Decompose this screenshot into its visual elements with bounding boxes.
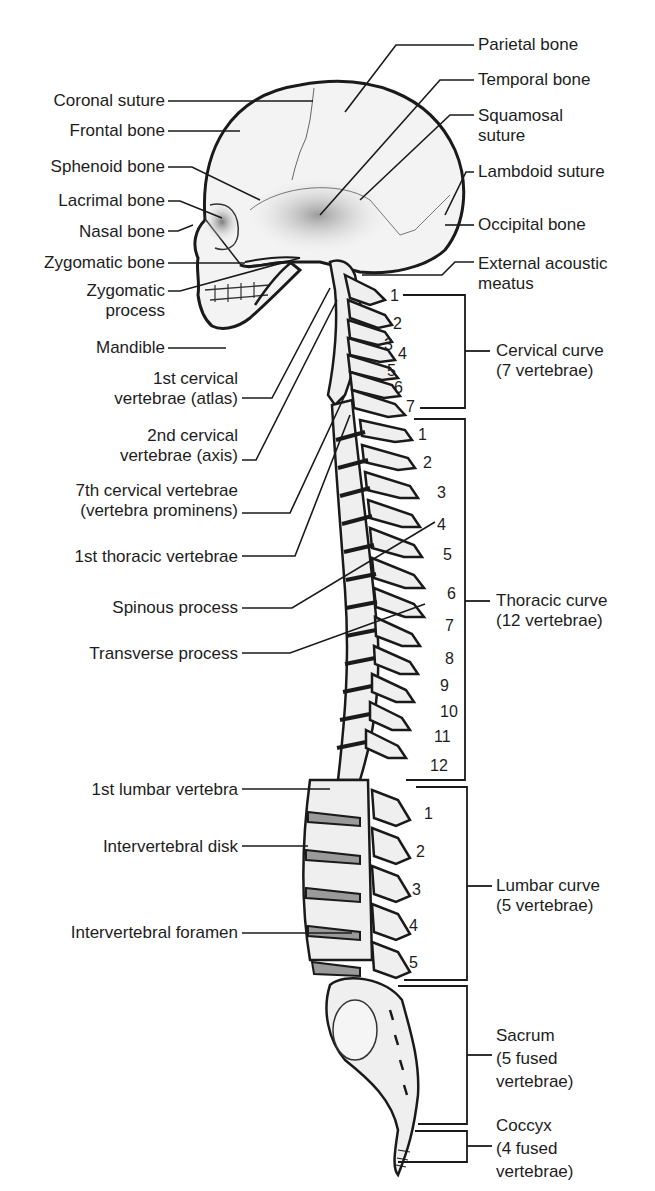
region-thoracic-count: (12 vertebrae) [496, 611, 607, 631]
thoracic-number-7: 7 [445, 617, 454, 635]
label-c7-line2: (vertebra prominens) [75, 501, 238, 521]
lumbar-number-2: 2 [416, 843, 425, 861]
region-cervical-curve: Cervical curve (7 vertebrae) [496, 341, 604, 381]
label-axis-line2: vertebrae (axis) [120, 446, 238, 466]
label-external-acoustic-meatus-line1: External acoustic [478, 254, 607, 274]
region-thoracic-curve: Thoracic curve (12 vertebrae) [496, 591, 607, 631]
label-occipital-bone: Occipital bone [478, 215, 586, 235]
region-coccyx: Coccyx (4 fused vertebrae) [496, 1114, 573, 1183]
label-spinous-process: Spinous process [112, 598, 238, 618]
label-lacrimal-bone: Lacrimal bone [58, 191, 165, 211]
label-atlas-line2: vertebrae (atlas) [114, 389, 238, 409]
thoracic-number-11: 11 [434, 728, 451, 746]
region-coccyx-count-line2: vertebrae) [496, 1160, 573, 1183]
label-parietal-bone: Parietal bone [478, 35, 578, 55]
region-sacrum-name: Sacrum [496, 1024, 573, 1047]
region-lumbar-count: (5 vertebrae) [496, 896, 600, 916]
label-external-acoustic-meatus: External acoustic meatus [478, 254, 607, 294]
cervical-number-6: 6 [394, 379, 403, 397]
lumbar-number-4: 4 [409, 917, 418, 935]
thoracic-number-5: 5 [443, 546, 452, 564]
thoracic-number-10: 10 [440, 703, 458, 721]
region-sacrum-count-line2: vertebrae) [496, 1070, 573, 1093]
region-lumbar-curve: Lumbar curve (5 vertebrae) [496, 876, 600, 916]
region-sacrum-count-line1: (5 fused [496, 1047, 573, 1070]
label-axis-line1: 2nd cervical [120, 426, 238, 446]
region-cervical-count: (7 vertebrae) [496, 361, 604, 381]
thoracic-number-1: 1 [418, 426, 427, 444]
region-cervical-name: Cervical curve [496, 341, 604, 361]
label-transverse-process: Transverse process [89, 644, 238, 664]
cervical-number-1: 1 [390, 287, 399, 305]
lumbar-number-3: 3 [412, 881, 421, 899]
label-atlas: 1st cervical vertebrae (atlas) [114, 369, 238, 409]
label-zygomatic-process-line2: process [5, 301, 165, 321]
cervical-number-7: 7 [406, 398, 415, 416]
label-external-acoustic-meatus-line2: meatus [478, 274, 607, 294]
lumbar-number-5: 5 [409, 954, 418, 972]
thoracic-number-3: 3 [437, 484, 446, 502]
label-coronal-suture: Coronal suture [53, 91, 165, 111]
label-axis: 2nd cervical vertebrae (axis) [120, 426, 238, 466]
label-1st-thoracic: 1st thoracic vertebrae [75, 547, 238, 567]
label-intervertebral-disk: Intervertebral disk [103, 837, 238, 857]
region-sacrum: Sacrum (5 fused vertebrae) [496, 1024, 573, 1093]
lumbar-number-1: 1 [424, 805, 433, 823]
thoracic-number-12: 12 [430, 757, 448, 775]
thoracic-number-6: 6 [447, 585, 456, 603]
label-nasal-bone: Nasal bone [79, 222, 165, 242]
label-squamosal-suture: Squamosal suture [478, 106, 563, 146]
cervical-number-4: 4 [398, 345, 407, 363]
label-zygomatic-process: Zygomatic process [5, 281, 165, 321]
thoracic-number-4: 4 [437, 516, 446, 534]
label-intervertebral-foramen: Intervertebral foramen [71, 923, 238, 943]
label-squamosal-suture-line1: Squamosal [478, 106, 563, 126]
label-atlas-line1: 1st cervical [114, 369, 238, 389]
region-coccyx-name: Coccyx [496, 1114, 573, 1137]
thoracic-number-8: 8 [445, 650, 454, 668]
label-lambdoid-suture: Lambdoid suture [478, 162, 605, 182]
label-sphenoid-bone: Sphenoid bone [51, 157, 165, 177]
thoracic-number-2: 2 [423, 454, 432, 472]
label-c7-vertebra-prominens: 7th cervical vertebrae (vertebra promine… [75, 481, 238, 521]
region-lumbar-name: Lumbar curve [496, 876, 600, 896]
cervical-number-3: 3 [384, 336, 393, 354]
label-squamosal-suture-line2: suture [478, 126, 563, 146]
label-zygomatic-process-line1: Zygomatic [5, 281, 165, 301]
region-coccyx-count-line1: (4 fused [496, 1137, 573, 1160]
label-frontal-bone: Frontal bone [70, 121, 165, 141]
anatomy-diagram: Coronal suture Frontal bone Sphenoid bon… [0, 0, 655, 1191]
label-1st-lumbar: 1st lumbar vertebra [92, 780, 238, 800]
label-mandible: Mandible [96, 338, 165, 358]
cervical-number-5: 5 [387, 362, 396, 380]
label-zygomatic-bone: Zygomatic bone [44, 253, 165, 273]
cervical-number-2: 2 [393, 315, 402, 333]
label-c7-line1: 7th cervical vertebrae [75, 481, 238, 501]
thoracic-number-9: 9 [440, 677, 449, 695]
label-temporal-bone: Temporal bone [478, 70, 590, 90]
region-thoracic-name: Thoracic curve [496, 591, 607, 611]
